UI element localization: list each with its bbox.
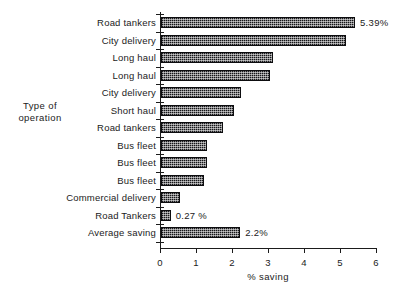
category-label: Bus fleet [6,157,156,168]
category-label: Road tankers [6,122,156,133]
y-axis-tick [156,84,164,85]
y-axis-tick [156,207,164,208]
category-label: Long haul [6,70,156,81]
bar [161,140,207,151]
category-label: Bus fleet [6,140,156,151]
category-label: Road Tankers [6,210,156,221]
y-axis-tick [156,224,164,225]
bar-value-label: 2.2% [245,227,268,238]
category-label: Long haul [6,52,156,63]
bar-value-label: 5.39% [360,17,388,28]
bar [161,210,171,221]
x-axis-tick [232,248,233,253]
x-axis-tick-label: 4 [289,257,319,268]
category-label: Short haul [6,105,156,116]
x-axis-tick-label: 3 [253,257,283,268]
category-label: Road tankers [6,17,156,28]
y-axis-tick [156,49,164,50]
bar [161,35,346,46]
x-axis-title: % saving [160,271,376,282]
category-label: City delivery [6,87,156,98]
category-label: City delivery [6,35,156,46]
bar [161,105,234,116]
bar [161,175,204,186]
x-axis-tick-label: 0 [145,257,175,268]
y-axis-tick [156,102,164,103]
y-axis-tick [156,14,164,15]
y-axis-tick [156,32,164,33]
bar [161,227,240,238]
bar [161,192,180,203]
y-axis-tick [156,137,164,138]
bar [161,122,223,133]
bar [161,17,355,28]
x-axis-tick [268,248,269,253]
x-axis-tick-label: 2 [217,257,247,268]
category-label: Average saving [6,227,156,238]
bar-value-label: 0.27 % [176,210,207,221]
plot-area: 01234565.39%0.27 %2.2% [160,12,376,248]
x-axis-tick-label: 1 [181,257,211,268]
y-axis-tick [156,67,164,68]
category-label: Bus fleet [6,175,156,186]
x-axis-tick-label: 5 [325,257,355,268]
bar [161,157,207,168]
x-axis-tick [160,248,161,253]
category-label: Commercial delivery [6,192,156,203]
y-axis-tick [156,189,164,190]
x-axis-tick [304,248,305,253]
y-axis-tick [156,119,164,120]
y-axis-tick [156,242,164,243]
y-axis-tick [156,154,164,155]
bar [161,87,241,98]
x-axis-tick-label: 6 [361,257,391,268]
bar [161,70,270,81]
bar-chart: Type of operation Road tankersCity deliv… [0,0,411,293]
x-axis-tick [376,248,377,253]
category-label-list: Road tankersCity deliveryLong haulLong h… [4,12,156,248]
x-axis-tick [340,248,341,253]
bar [161,52,273,63]
y-axis-tick [156,172,164,173]
x-axis-tick [196,248,197,253]
